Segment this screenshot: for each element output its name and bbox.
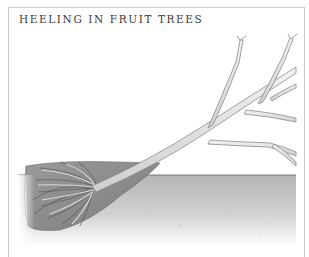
heeling-in-illustration xyxy=(9,30,305,247)
trunk xyxy=(92,67,296,192)
figure-title: HEELING IN FRUIT TREES xyxy=(19,13,203,25)
